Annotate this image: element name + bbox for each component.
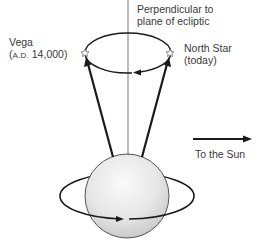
axis-to-north-star (142, 64, 167, 157)
precession-circle-lower-left (85, 53, 132, 73)
vega-era-paren-close: ) (64, 48, 68, 60)
earth-sphere (85, 154, 169, 238)
north-star-icon (166, 49, 174, 57)
vega-era: (A.D. 14,000) (9, 48, 67, 62)
sun-direction-label: To the Sun (195, 148, 245, 160)
precession-arrowhead-icon (133, 70, 141, 76)
north-star-label: North Star (today) (184, 42, 232, 66)
perpendicular-label-line2: plane of ecliptic (137, 15, 213, 27)
vega-era-year: 14,000 (32, 48, 64, 60)
vega-name: Vega (9, 36, 67, 48)
vega-era-prefix: A.D. (13, 51, 29, 60)
vega-star-icon (81, 49, 89, 57)
axis-to-vega (88, 64, 113, 157)
sun-direction-text: To the Sun (195, 148, 245, 160)
vega-label: Vega (A.D. 14,000) (9, 36, 67, 62)
perpendicular-label: Perpendicular to plane of ecliptic (137, 3, 213, 27)
arrow-right-icon (243, 136, 252, 143)
north-star-name: North Star (184, 42, 232, 54)
perpendicular-label-line1: Perpendicular to (137, 3, 213, 15)
north-star-era: (today) (184, 54, 232, 66)
